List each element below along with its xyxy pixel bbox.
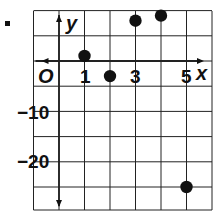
y-tick-label-neg20: −20 — [17, 152, 49, 171]
y-axis-label: y — [66, 13, 77, 33]
data-point — [180, 181, 192, 193]
data-point — [78, 50, 90, 62]
y-tick-label-neg10: −10 — [17, 103, 49, 122]
x-axis-label: x — [196, 63, 207, 83]
data-point — [104, 70, 116, 82]
x-tick-label-5: 5 — [181, 67, 192, 86]
x-axis-arrow-left-icon — [42, 58, 49, 64]
data-point — [155, 9, 167, 21]
data-point — [129, 14, 141, 26]
x-tick-label-1: 1 — [80, 67, 91, 86]
origin-label: O — [38, 66, 54, 86]
y-axis-arrow-down-icon — [56, 200, 62, 207]
x-tick-label-3: 3 — [130, 67, 141, 86]
y-axis-arrow-up-icon — [56, 15, 62, 22]
